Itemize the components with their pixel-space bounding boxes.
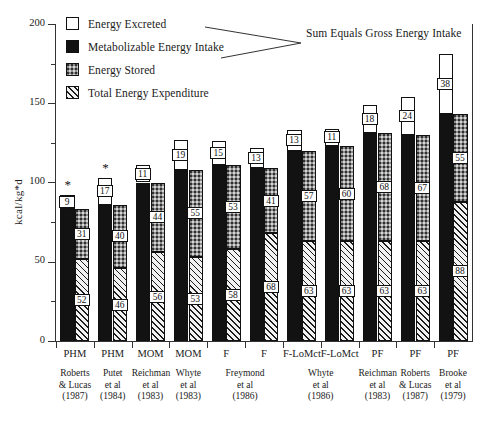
source-caption: Putet et al (1984) bbox=[94, 368, 132, 403]
value-label-total-energy-expenditure: 68 bbox=[263, 281, 279, 293]
x-axis-category-label: F bbox=[245, 348, 283, 359]
value-label-energy-stored: 67 bbox=[414, 182, 430, 194]
x-axis-tick bbox=[359, 342, 360, 348]
x-axis-tick bbox=[283, 342, 284, 348]
value-label-energy-excreted: 13 bbox=[248, 152, 264, 164]
x-axis-tick bbox=[321, 342, 322, 348]
bar-segment-metabolizable-energy-intake bbox=[174, 170, 188, 341]
value-label-energy-stored: 31 bbox=[74, 228, 90, 240]
x-axis-tick bbox=[207, 342, 208, 348]
x-axis-category-label: MOM bbox=[132, 348, 170, 359]
chart-root: 200 150 100 50 0 kcal/kg*d Energy Excret… bbox=[0, 0, 494, 424]
x-axis-category-label: PF bbox=[434, 348, 472, 359]
source-caption: Whyte et al (1986) bbox=[283, 368, 359, 403]
value-label-energy-stored: 44 bbox=[149, 211, 165, 223]
bar-segment-metabolizable-energy-intake bbox=[98, 205, 112, 341]
x-axis-category-label: PF bbox=[396, 348, 434, 359]
value-label-energy-stored: 40 bbox=[112, 230, 128, 242]
source-caption: Reichman et al (1983) bbox=[132, 368, 170, 403]
value-label-energy-stored: 41 bbox=[263, 195, 279, 207]
y-tick-label-200: 200 bbox=[14, 17, 45, 28]
value-label-total-energy-expenditure: 53 bbox=[187, 293, 203, 305]
value-label-energy-stored: 53 bbox=[225, 201, 241, 213]
value-label-energy-excreted: 24 bbox=[399, 110, 415, 122]
value-label-energy-excreted: 13 bbox=[286, 134, 302, 146]
source-caption: Freymond et al (1986) bbox=[207, 368, 283, 403]
bar-segment-metabolizable-energy-intake bbox=[287, 151, 301, 341]
value-label-energy-excreted: 18 bbox=[362, 113, 378, 125]
x-axis-tick bbox=[169, 342, 170, 348]
bar-segment-metabolizable-energy-intake bbox=[136, 183, 150, 342]
source-caption: Brooke et al (1979) bbox=[434, 368, 472, 403]
y-tick-label-0: 0 bbox=[14, 334, 45, 345]
source-caption: Whyte et al (1983) bbox=[169, 368, 207, 403]
x-axis-category-label: MOM bbox=[169, 348, 207, 359]
source-caption: Roberts & Lucas (1987) bbox=[396, 368, 434, 403]
bar-segment-metabolizable-energy-intake bbox=[250, 168, 264, 341]
x-axis-category-label: F bbox=[207, 348, 245, 359]
bar-segment-metabolizable-energy-intake bbox=[212, 165, 226, 341]
significance-marker: * bbox=[65, 181, 72, 189]
x-axis-tick bbox=[94, 342, 95, 348]
value-label-total-energy-expenditure: 58 bbox=[225, 289, 241, 301]
value-label-energy-stored: 60 bbox=[339, 188, 355, 200]
value-label-energy-stored: 55 bbox=[452, 152, 468, 164]
value-label-energy-stored: 55 bbox=[187, 207, 203, 219]
value-label-total-energy-expenditure: 56 bbox=[149, 291, 165, 303]
value-label-energy-excreted: 17 bbox=[97, 185, 113, 197]
value-label-energy-excreted: 11 bbox=[135, 168, 151, 180]
x-axis-category-label: F-LoMct bbox=[321, 348, 359, 359]
value-label-energy-stored: 68 bbox=[376, 181, 392, 193]
bar-segment-metabolizable-energy-intake bbox=[439, 114, 453, 341]
x-axis-tick bbox=[396, 342, 397, 348]
x-axis-tick bbox=[132, 342, 133, 348]
value-label-energy-stored: 57 bbox=[301, 190, 317, 202]
source-caption: Reichman et al (1983) bbox=[359, 368, 397, 403]
value-label-total-energy-expenditure: 88 bbox=[452, 265, 468, 277]
value-label-energy-excreted: 15 bbox=[210, 147, 226, 159]
x-axis-tick bbox=[434, 342, 435, 348]
x-axis-category-label: PF bbox=[359, 348, 397, 359]
value-label-energy-excreted: 19 bbox=[172, 149, 188, 161]
significance-marker: * bbox=[102, 164, 109, 172]
value-label-total-energy-expenditure: 63 bbox=[301, 285, 317, 297]
value-label-total-energy-expenditure: 63 bbox=[376, 285, 392, 297]
value-label-energy-excreted: 9 bbox=[59, 196, 75, 208]
x-axis-category-label: PHM bbox=[56, 348, 94, 359]
y-tick-label-150: 150 bbox=[14, 96, 45, 107]
x-axis-tick bbox=[245, 342, 246, 348]
value-label-total-energy-expenditure: 63 bbox=[339, 285, 355, 297]
value-label-total-energy-expenditure: 52 bbox=[74, 294, 90, 306]
x-axis-category-label: PHM bbox=[94, 348, 132, 359]
x-axis-tick bbox=[56, 342, 57, 348]
value-label-energy-excreted: 11 bbox=[324, 131, 340, 143]
y-tick-label-50: 50 bbox=[14, 254, 45, 265]
source-caption: Roberts & Lucas (1987) bbox=[56, 368, 94, 403]
value-label-energy-excreted: 38 bbox=[437, 78, 453, 90]
bar-segment-metabolizable-energy-intake bbox=[363, 133, 377, 341]
x-axis-category-label: F-LoMct bbox=[283, 348, 321, 359]
value-label-total-energy-expenditure: 46 bbox=[112, 299, 128, 311]
bar-segment-metabolizable-energy-intake bbox=[60, 209, 74, 341]
bar-segment-metabolizable-energy-intake bbox=[325, 146, 339, 341]
value-label-total-energy-expenditure: 63 bbox=[414, 285, 430, 297]
bar-segment-metabolizable-energy-intake bbox=[401, 135, 415, 341]
y-axis-title: kcal/kg*d bbox=[12, 179, 24, 225]
